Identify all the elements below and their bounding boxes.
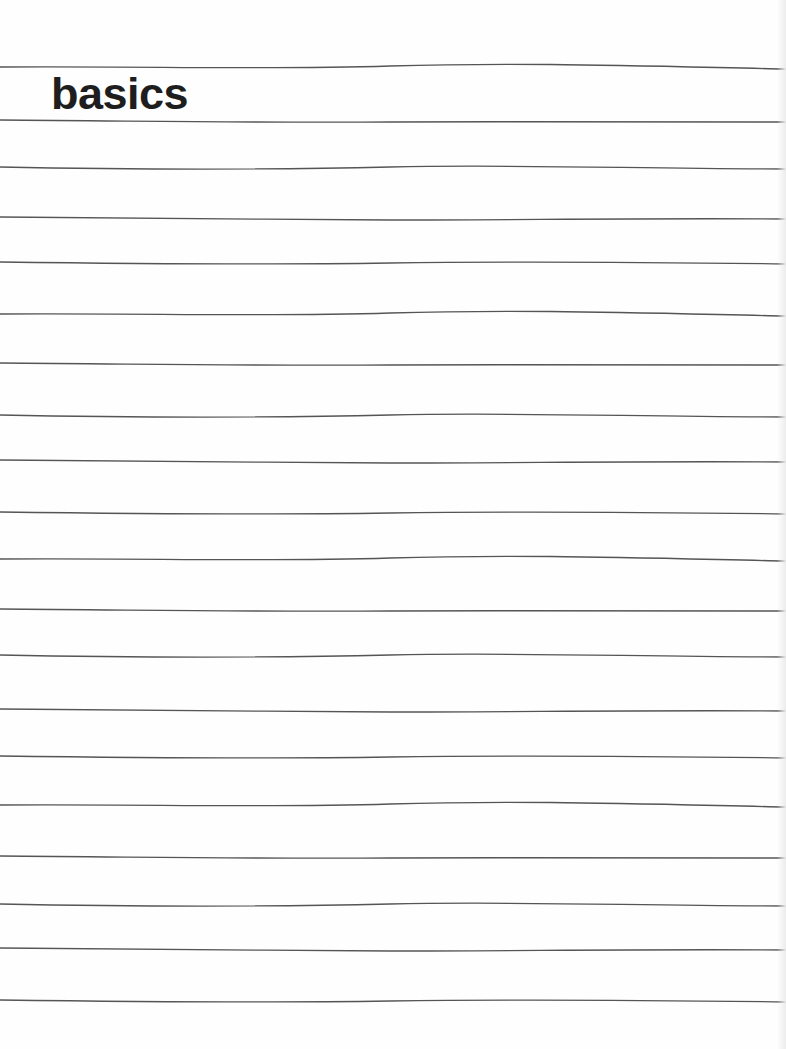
rule-line [0,460,786,463]
rule-line [0,948,786,951]
page-title: basics [51,68,188,120]
rule-line [0,609,786,611]
rule-line [0,414,786,417]
rule-line [0,512,786,514]
rule-line [0,120,786,122]
rule-line [0,217,786,220]
rule-line [0,756,786,758]
rule-line [0,166,786,169]
rule-line [0,654,786,657]
rule-line [0,1000,786,1002]
page-edge-shadow [777,0,786,1049]
rule-line [0,856,786,858]
rule-line [0,709,786,712]
rule-line [0,556,786,561]
rule-line [0,903,786,906]
rule-line [0,802,786,807]
rule-line [0,262,786,264]
rule-line [0,363,786,365]
rule-line [0,311,786,316]
ruled-lines [0,0,786,1049]
lined-paper-page: basics [0,0,786,1049]
